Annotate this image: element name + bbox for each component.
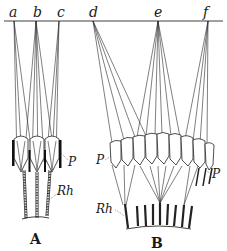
point-label-b: b <box>33 4 42 20</box>
label-A-P: P <box>67 155 77 169</box>
pigment-screen <box>59 140 62 168</box>
panel-label-A: A <box>29 231 42 247</box>
compound-eye-diagram: a b c d e f <box>0 0 227 251</box>
label-B-P-left: P <box>95 153 105 167</box>
panel-label-B: B <box>151 235 163 251</box>
label-B-Rh: Rh <box>95 202 113 216</box>
panel-b: P P Rh B <box>93 21 221 251</box>
panel-b-rays-e <box>137 21 182 203</box>
point-label-d: d <box>89 4 98 20</box>
point-label-e: e <box>154 4 162 20</box>
pigment-screen <box>12 140 15 166</box>
panel-a: P Rh A <box>12 21 77 247</box>
point-label-a: a <box>9 4 17 20</box>
panel-b-rhabdoms <box>125 203 192 229</box>
panel-b-ommatidia <box>110 133 214 187</box>
label-A-Rh: Rh <box>56 184 74 198</box>
pigment-screen <box>29 150 31 172</box>
panel-b-rays-d <box>93 21 146 205</box>
point-label-c: c <box>57 4 65 20</box>
point-label-f: f <box>202 4 211 20</box>
pigment-screen <box>44 150 46 172</box>
label-B-P-right: P <box>211 167 221 181</box>
panel-a-rhabdoms <box>22 170 50 219</box>
panel-a-ommatidia <box>12 136 62 172</box>
